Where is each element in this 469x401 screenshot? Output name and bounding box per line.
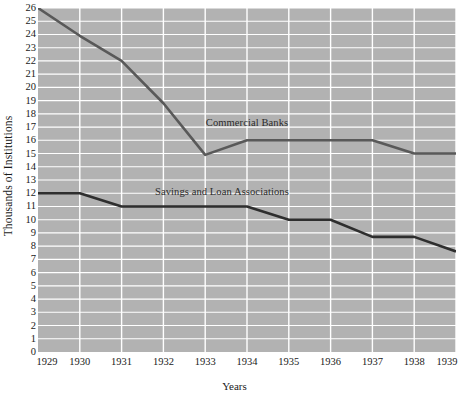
y-tick-label: 23: [16, 43, 36, 53]
x-axis-title-text: Years: [222, 380, 247, 392]
y-tick-label: 14: [16, 162, 36, 172]
x-tick-label: 1936: [320, 356, 341, 368]
y-tick-label: 8: [16, 241, 36, 251]
x-tick-label: 1933: [195, 356, 216, 368]
y-tick-label: 24: [16, 29, 36, 39]
x-axis-title: Years: [0, 380, 469, 392]
x-tick-label: 1938: [404, 356, 425, 368]
plot-area: [38, 8, 456, 352]
x-tick-label: 1931: [111, 356, 132, 368]
y-tick-label: 2: [16, 321, 36, 331]
y-tick-label: 17: [16, 122, 36, 132]
x-tick-label: 1939: [437, 356, 458, 368]
y-tick-label: 1: [16, 334, 36, 344]
y-axis-tick-labels: 0123456789101112131415161718192021222324…: [16, 0, 36, 352]
x-tick-label: 1932: [153, 356, 174, 368]
x-tick-label: 1934: [237, 356, 258, 368]
y-tick-label: 12: [16, 188, 36, 198]
x-tick-label: 1929: [37, 356, 58, 368]
line-chart: Thousands of Institutions 01234567891011…: [0, 0, 469, 401]
y-tick-label: 22: [16, 56, 36, 66]
y-tick-label: 6: [16, 268, 36, 278]
series-annotation-0: Commercial Banks: [206, 117, 288, 128]
y-axis-title-text: Thousands of Institutions: [2, 116, 14, 237]
y-tick-label: 11: [16, 201, 36, 211]
y-tick-label: 21: [16, 69, 36, 79]
plot-svg: [38, 8, 456, 352]
y-tick-label: 7: [16, 254, 36, 264]
y-axis-title: Thousands of Institutions: [0, 0, 16, 352]
y-tick-label: 25: [16, 16, 36, 26]
y-tick-label: 3: [16, 307, 36, 317]
y-tick-label: 10: [16, 215, 36, 225]
y-tick-label: 19: [16, 96, 36, 106]
x-tick-label: 1937: [362, 356, 383, 368]
y-tick-label: 5: [16, 281, 36, 291]
y-tick-label: 20: [16, 82, 36, 92]
y-tick-label: 4: [16, 294, 36, 304]
series-annotation-1: Savings and Loan Associations: [155, 186, 289, 197]
y-tick-label: 18: [16, 109, 36, 119]
x-tick-label: 1930: [69, 356, 90, 368]
x-tick-label: 1935: [278, 356, 299, 368]
x-axis-tick-labels: 1929193019311932193319341935193619371938…: [0, 356, 469, 374]
y-tick-label: 15: [16, 149, 36, 159]
y-tick-label: 26: [16, 3, 36, 13]
y-tick-label: 16: [16, 135, 36, 145]
y-tick-label: 9: [16, 228, 36, 238]
y-tick-label: 13: [16, 175, 36, 185]
